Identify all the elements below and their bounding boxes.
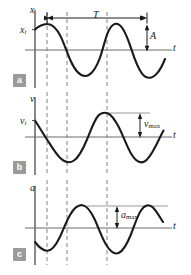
panel-b-velocity [25, 92, 172, 175]
acceleration-curve [35, 205, 163, 253]
period-label: T [93, 9, 99, 20]
vmax-arrow-head-top [138, 113, 142, 119]
amax-arrow-head-top [115, 206, 119, 212]
amplitude-arrow-head-top [145, 25, 150, 31]
panel-b-x-axis-label: t [173, 129, 176, 140]
panel-c-y-axis-label: a [30, 182, 35, 193]
period-arrow-head-right [141, 16, 147, 21]
position-curve [35, 24, 165, 78]
panel-badge-a: a [13, 74, 26, 87]
panel-a-y-axis-label: x [30, 4, 34, 15]
amplitude-label: A [150, 30, 156, 41]
period-arrow-head-left [47, 16, 53, 21]
panel-c-acceleration [25, 180, 172, 265]
panel-c-x-axis-label: t [173, 220, 176, 231]
initial-velocity-label: vi [20, 115, 26, 126]
panel-b-y-axis-label: v [30, 93, 34, 104]
panel-a-x-axis-label: t [173, 42, 176, 53]
initial-position-label: xi [20, 24, 26, 35]
panel-badge-c: c [13, 248, 26, 261]
panel-badge-b: b [13, 161, 26, 174]
amax-label: amax [121, 209, 138, 220]
panel-a-position [25, 10, 172, 88]
shm-figure [0, 0, 191, 275]
amplitude-arrow-head-bottom [145, 46, 150, 52]
vmax-label: vmax [144, 118, 160, 129]
